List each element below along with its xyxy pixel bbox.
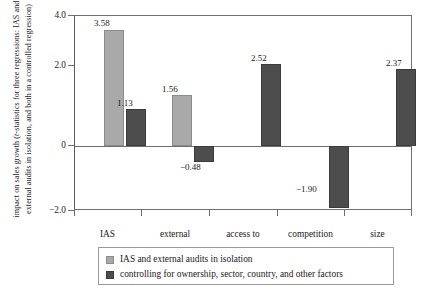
value-label-access-to-finance: 2.52	[251, 54, 267, 63]
y-axis-title: impact on sales growth (t-statistics for…	[0, 0, 46, 218]
y-tick-label-0: 0	[38, 141, 66, 150]
x-tick-mark-5	[411, 210, 412, 216]
chart-legend: IAS and external audits in isolation con…	[98, 247, 394, 285]
legend-item-isolation: IAS and external audits in isolation	[106, 253, 386, 267]
x-category-label-access-to-finance-line1: access to	[209, 229, 277, 240]
y-axis-title-line1-b: -statistics for three	[12, 72, 21, 134]
x-tick-mark-3	[277, 210, 278, 216]
x-category-label-size-line1: size	[370, 229, 385, 239]
value-label-external-audits-isolation: 1.56	[162, 85, 178, 94]
bar-external-audits-isolation	[172, 95, 192, 146]
legend-swatch-dark-icon	[106, 271, 114, 279]
x-category-label-competition-line1: competition	[288, 229, 333, 239]
x-tick-mark-4	[344, 210, 345, 216]
bar-ias-isolation	[104, 30, 124, 146]
bar-size-controlled	[396, 69, 416, 146]
x-tick-mark-2	[209, 210, 210, 216]
value-label-ias-controlled: 1.13	[117, 99, 133, 108]
x-tick-mark-0	[74, 210, 75, 216]
bar-external-audits-controlled	[194, 146, 214, 162]
legend-swatch-light-icon	[106, 256, 114, 264]
y-tick-label-neg2: −2.0	[38, 206, 66, 215]
x-category-label-ias: IAS	[74, 218, 141, 240]
legend-label-isolation: IAS and external audits in isolation	[120, 255, 253, 264]
y-tick-label-4: 4.0	[38, 11, 66, 20]
legend-label-controlled: controlling for ownership, sector, count…	[120, 270, 343, 279]
x-category-label-external-audits-line1: external	[141, 229, 209, 240]
bar-chart: impact on sales growth (t-statistics for…	[0, 0, 421, 291]
bar-access-to-finance-controlled	[261, 64, 281, 146]
value-label-competition: −1.90	[296, 185, 317, 194]
bar-competition-controlled	[329, 146, 349, 208]
y-axis-title-line3: isolation, and both in a controlled regr…	[24, 4, 33, 155]
y-tick-label-2: 2.0	[38, 61, 66, 70]
value-label-size: 2.37	[386, 59, 402, 68]
zero-baseline	[75, 146, 411, 147]
x-category-label-competition: competition	[277, 218, 344, 240]
value-label-external-audits-controlled: −0.48	[180, 163, 201, 172]
x-category-label-ias-line1: IAS	[100, 229, 115, 239]
legend-item-controlled: controlling for ownership, sector, count…	[106, 268, 386, 282]
bar-ias-controlled	[126, 109, 146, 146]
value-label-ias-isolation: 3.58	[94, 19, 110, 28]
x-category-label-size: size	[344, 218, 411, 240]
x-tick-mark-1	[141, 210, 142, 216]
y-axis-title-line1-a: impact on sales growth (	[12, 136, 21, 218]
plot-area	[74, 15, 412, 210]
